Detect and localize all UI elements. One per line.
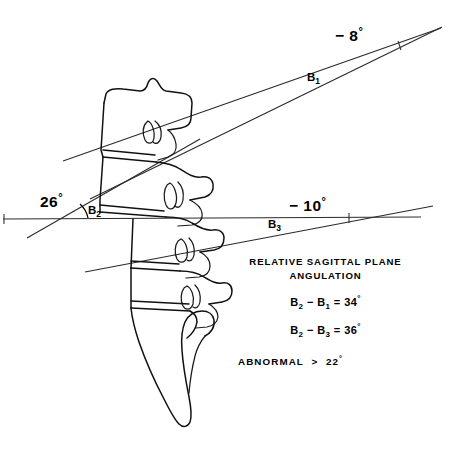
vertebra-l2 (100, 157, 213, 226)
formula-1-right-sub: 1 (326, 302, 331, 311)
b1-segment-sub: 1 (315, 76, 320, 86)
b2-segment-sub: 2 (96, 209, 101, 219)
b2-angle-label: 26° (40, 192, 63, 210)
formula-row-2: B2 − B3 = 36° (243, 322, 408, 339)
formula-2-right-sub: 3 (326, 330, 331, 339)
abnormal-threshold: ABNORMAL > 22° (238, 354, 343, 367)
b2-angle-degree: ° (58, 191, 63, 203)
b3-segment-sub: 3 (276, 223, 281, 233)
b1-angle-label: − 8° (335, 26, 363, 44)
vertebra-l5 (131, 268, 232, 328)
b2-segment-label: B2 (88, 205, 101, 219)
b3-segment-label: B3 (268, 219, 281, 233)
diagram-linework (0, 0, 462, 456)
b1-segment-label: B1 (307, 72, 320, 86)
b2-angle-value: 26 (40, 193, 58, 210)
abnormal-comparator: > (311, 356, 318, 367)
abnormal-degree: ° (339, 354, 343, 363)
measurement-lines (3, 27, 442, 272)
b1-reference-line (63, 28, 441, 161)
horizontal-reference-line (3, 217, 421, 219)
formula-2-degree: ° (357, 322, 361, 331)
note-title-line1: RELATIVE SAGITTAL PLANE (243, 255, 408, 269)
formula-1-left-base: B (290, 295, 298, 307)
formula-1-result: 34 (344, 295, 357, 307)
spine-angulation-figure: − 8° B1 26° B2 − 10° B3 RELATIVE SAGITTA… (0, 0, 462, 456)
formula-row-1: B2 − B1 = 34° (243, 294, 408, 311)
angulation-note-block: RELATIVE SAGITTAL PLANE ANGULATION B2 − … (243, 255, 408, 339)
formula-1-operator: − (307, 295, 314, 307)
b1-angle-value: − 8 (335, 27, 358, 44)
note-title: RELATIVE SAGITTAL PLANE ANGULATION (243, 255, 408, 283)
abnormal-label: ABNORMAL (238, 356, 304, 367)
abnormal-value: 22 (326, 356, 339, 367)
formula-2-equals: = (334, 323, 341, 335)
formula-1-degree: ° (357, 294, 361, 303)
formula-1-right-base: B (317, 295, 325, 307)
formula-2-left-sub: 2 (299, 330, 304, 339)
b3-angle-label: − 10° (289, 196, 327, 214)
sacrum-coccyx (131, 308, 214, 426)
formula-1-equals: = (334, 295, 341, 307)
b3-angle-degree: ° (322, 195, 327, 207)
b2-angle-arc (80, 204, 88, 218)
b1-second-reference-line (90, 27, 442, 199)
b1-angle-degree: ° (358, 25, 363, 37)
formula-2-result: 36 (344, 323, 357, 335)
formula-2-left-base: B (290, 323, 298, 335)
formula-1-left-sub: 2 (299, 302, 304, 311)
b3-angle-value: − 10 (289, 197, 322, 214)
formula-2-right-base: B (317, 323, 325, 335)
formula-2-operator: − (307, 323, 314, 335)
note-title-line2: ANGULATION (243, 269, 408, 283)
